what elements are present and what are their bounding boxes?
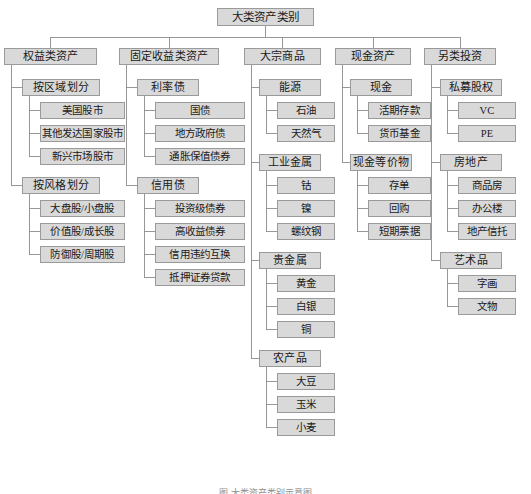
item-node-2-2-0: 黄金 bbox=[277, 275, 335, 292]
item-node-2-2-2: 铜 bbox=[277, 321, 335, 338]
item-node-3-1-1: 回购 bbox=[368, 200, 431, 217]
item-node-0-0-0: 美国股市 bbox=[40, 102, 125, 119]
branch-node-2: 大宗商品 bbox=[244, 48, 321, 65]
group-node-2-2: 贵金属 bbox=[259, 252, 321, 269]
item-node-3-1-2: 短期票据 bbox=[368, 223, 431, 240]
branch-node-0: 权益类资产 bbox=[4, 48, 97, 65]
item-node-4-2-0: 字画 bbox=[458, 275, 516, 292]
group-node-1-0: 利率债 bbox=[137, 79, 199, 96]
item-node-2-2-1: 白银 bbox=[277, 298, 335, 315]
item-node-1-0-1: 地方政府债 bbox=[155, 125, 245, 142]
branch-node-4: 另类投资 bbox=[424, 48, 496, 65]
item-node-2-1-1: 镍 bbox=[277, 200, 335, 217]
item-node-1-0-2: 通胀保值债券 bbox=[155, 148, 245, 165]
item-node-4-1-2: 地产信托 bbox=[458, 223, 516, 240]
item-node-2-3-0: 大豆 bbox=[277, 373, 335, 390]
group-node-0-1: 按风格划分 bbox=[22, 177, 100, 194]
group-node-4-0: 私募股权 bbox=[440, 79, 502, 96]
group-node-0-0: 按区域划分 bbox=[22, 79, 100, 96]
item-node-3-1-0: 存单 bbox=[368, 177, 431, 194]
branch-node-3: 现金资产 bbox=[335, 48, 411, 65]
item-node-1-1-1: 高收益债券 bbox=[155, 223, 245, 240]
item-node-2-3-1: 玉米 bbox=[277, 396, 335, 413]
item-node-2-0-0: 石油 bbox=[277, 102, 335, 119]
item-node-0-0-1: 其他发达国家股市 bbox=[40, 125, 125, 142]
item-node-0-0-2: 新兴市场股市 bbox=[40, 148, 125, 165]
group-node-1-1: 信用债 bbox=[137, 177, 199, 194]
group-node-2-0: 能源 bbox=[259, 79, 321, 96]
item-node-2-1-2: 螺纹钢 bbox=[277, 223, 335, 240]
item-node-2-3-2: 小麦 bbox=[277, 419, 335, 436]
item-node-2-1-0: 钴 bbox=[277, 177, 335, 194]
root-node: 大类资产类别 bbox=[217, 8, 314, 26]
item-node-1-1-3: 抵押证券贷款 bbox=[155, 269, 245, 286]
group-node-3-0: 现金 bbox=[350, 79, 412, 96]
item-node-2-0-1: 天然气 bbox=[277, 125, 335, 142]
org-chart-canvas: 大类资产类别权益类资产固定收益类资产大宗商品现金资产另类投资按区域划分美国股市其… bbox=[0, 0, 531, 494]
figure-caption: 图 大类资产类别示意图 bbox=[0, 486, 531, 494]
item-node-1-1-2: 信用违约互换 bbox=[155, 246, 245, 263]
item-node-0-1-0: 大盘股/小盘股 bbox=[40, 200, 125, 217]
group-node-4-1: 房地产 bbox=[440, 154, 502, 171]
group-node-4-2: 艺术品 bbox=[440, 252, 502, 269]
item-node-4-0-0: VC bbox=[458, 102, 516, 119]
item-node-0-1-2: 防御股/周期股 bbox=[40, 246, 125, 263]
item-node-3-0-0: 活期存款 bbox=[368, 102, 431, 119]
branch-node-1: 固定收益类资产 bbox=[119, 48, 219, 65]
group-node-3-1: 现金等价物 bbox=[350, 154, 412, 171]
item-node-4-0-1: PE bbox=[458, 125, 516, 142]
item-node-1-1-0: 投资级债券 bbox=[155, 200, 245, 217]
item-node-3-0-1: 货币基金 bbox=[368, 125, 431, 142]
item-node-4-2-1: 文物 bbox=[458, 298, 516, 315]
group-node-2-1: 工业金属 bbox=[259, 154, 321, 171]
item-node-1-0-0: 国债 bbox=[155, 102, 245, 119]
item-node-4-1-0: 商品房 bbox=[458, 177, 516, 194]
item-node-4-1-1: 办公楼 bbox=[458, 200, 516, 217]
item-node-0-1-1: 价值股/成长股 bbox=[40, 223, 125, 240]
group-node-2-3: 农产品 bbox=[259, 350, 321, 367]
